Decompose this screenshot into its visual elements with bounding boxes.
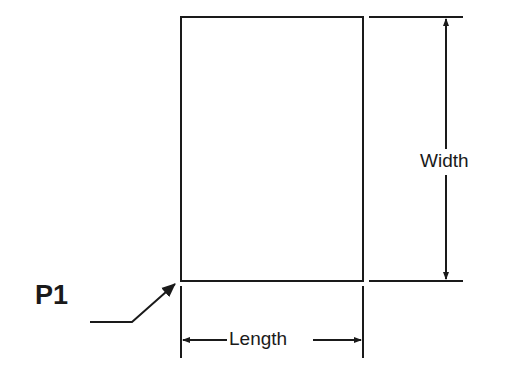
point-label-p1: P1 <box>35 282 68 309</box>
dimension-drawing <box>0 0 506 374</box>
rectangle-shape <box>181 17 363 281</box>
width-label: Width <box>420 149 469 172</box>
p1-leader-arrow <box>90 284 175 322</box>
length-label: Length <box>227 329 289 348</box>
